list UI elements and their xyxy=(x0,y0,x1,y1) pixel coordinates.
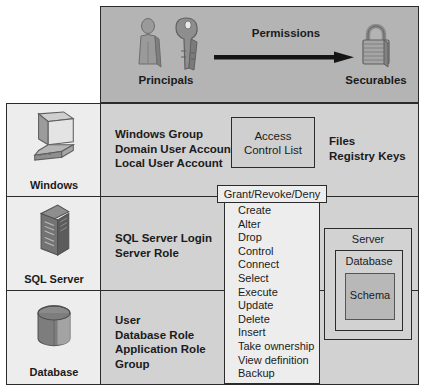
platform-label-database: Database xyxy=(7,366,101,378)
grant-revoke-deny-tab: Grant/Revoke/Deny xyxy=(217,185,327,203)
permission-item: Connect xyxy=(238,258,319,272)
access-control-list-box: Access Control List xyxy=(231,117,315,168)
permission-item: Delete xyxy=(238,313,319,327)
principals-text-windows: Windows Group Domain User Account Local … xyxy=(115,127,235,171)
permission-item: Alter xyxy=(238,218,319,232)
arrow-right-icon xyxy=(214,51,354,63)
padlock-icon xyxy=(358,19,394,69)
database-cylinder-icon xyxy=(31,303,77,353)
principals-text-database: User Database Role Application Role Grou… xyxy=(115,313,206,371)
permission-item: Execute xyxy=(238,286,319,300)
principals-label: Principals xyxy=(121,74,211,86)
permission-item: Backup xyxy=(238,367,319,381)
server-label: Server xyxy=(325,233,411,245)
permission-item: Update xyxy=(238,299,319,313)
platform-icon-column: Windows xyxy=(7,104,101,384)
permissions-arrow-label: Permissions xyxy=(221,27,351,39)
security-layers-grid: Windows xyxy=(6,103,419,385)
platform-cell-sql-server: SQL Server xyxy=(7,196,101,290)
schema-securable-box: Schema xyxy=(345,273,395,320)
diagram-canvas: Permissions Principals Securables xyxy=(0,0,426,392)
permission-item: Take ownership xyxy=(238,340,319,354)
server-securable-box: Server Database Schema xyxy=(324,228,412,340)
principals-text-sql-server: SQL Server Login Server Role xyxy=(115,231,212,260)
securables-text-windows: Files Registry Keys xyxy=(329,134,406,163)
keys-icon xyxy=(169,15,203,71)
server-tower-icon xyxy=(30,202,78,260)
database-securable-box: Database Schema xyxy=(335,250,403,331)
platform-cell-windows: Windows xyxy=(7,104,101,196)
row-divider-windows-sql xyxy=(7,196,418,197)
permission-item: View definition xyxy=(238,354,319,368)
permission-item: Create xyxy=(238,204,319,218)
platform-cell-database: Database xyxy=(7,290,101,383)
schema-label: Schema xyxy=(346,289,394,301)
principals-securables-band: Permissions Principals Securables xyxy=(100,6,419,103)
permission-item: Insert xyxy=(238,326,319,340)
platform-label-windows: Windows xyxy=(7,179,101,191)
platform-label-sql-server: SQL Server xyxy=(7,273,101,285)
permission-item: Select xyxy=(238,272,319,286)
permission-item: Control xyxy=(238,245,319,259)
computer-icon xyxy=(25,110,83,164)
database-label: Database xyxy=(336,255,402,267)
person-icon xyxy=(137,18,163,68)
securables-label: Securables xyxy=(331,74,421,86)
permissions-list-panel: Create Alter Drop Control Connect Select… xyxy=(224,201,320,384)
permission-item: Drop xyxy=(238,231,319,245)
